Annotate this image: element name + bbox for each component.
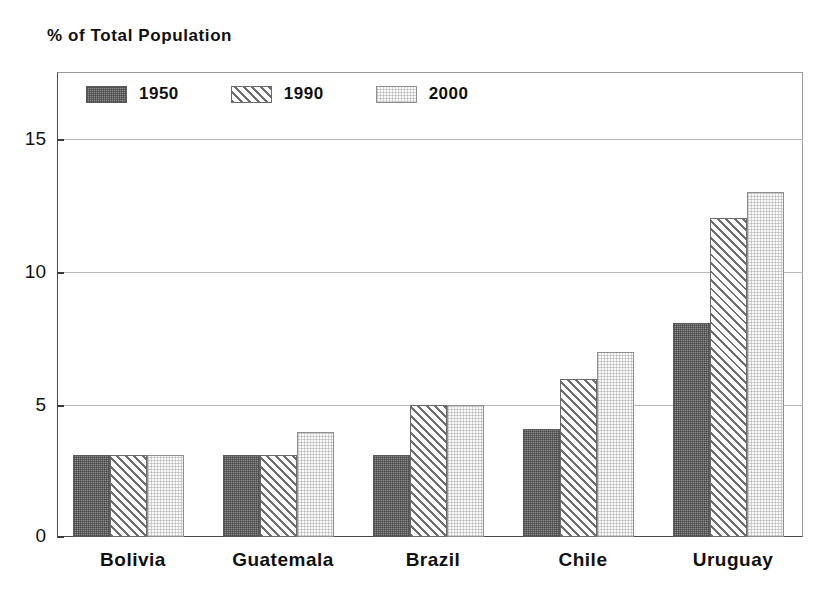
- bar-chile-2000[interactable]: [597, 352, 634, 537]
- bar-uruguay-1950[interactable]: [673, 323, 710, 537]
- bar-brazil-1990[interactable]: [410, 405, 447, 537]
- xlabel-guatemala: Guatemala: [208, 549, 358, 571]
- ytick-label-0: 0: [6, 525, 46, 547]
- xlabel-uruguay: Uruguay: [658, 549, 808, 571]
- bar-guatemala-1950[interactable]: [223, 455, 260, 537]
- ytick-label-10: 10: [6, 261, 46, 283]
- bar-chile-1950[interactable]: [523, 429, 560, 537]
- bar-bolivia-1990[interactable]: [110, 455, 147, 537]
- bar-group-uruguay: [673, 73, 784, 537]
- bar-bolivia-1950[interactable]: [73, 455, 110, 537]
- xlabel-brazil: Brazil: [358, 549, 508, 571]
- bar-group-guatemala: [223, 73, 334, 537]
- bar-group-brazil: [373, 73, 484, 537]
- chart-axis-title: % of Total Population: [47, 26, 232, 46]
- bar-bolivia-2000[interactable]: [147, 455, 184, 537]
- xlabel-bolivia: Bolivia: [58, 549, 208, 571]
- bar-guatemala-1990[interactable]: [260, 455, 297, 537]
- plot-area: [58, 73, 802, 537]
- bar-guatemala-2000[interactable]: [297, 432, 334, 537]
- bar-chile-1990[interactable]: [560, 379, 597, 537]
- bar-group-chile: [523, 73, 634, 537]
- bar-brazil-1950[interactable]: [373, 455, 410, 537]
- ytick-label-15: 15: [6, 128, 46, 150]
- bar-uruguay-1990[interactable]: [710, 218, 747, 537]
- bar-brazil-2000[interactable]: [447, 405, 484, 537]
- xlabel-chile: Chile: [508, 549, 658, 571]
- bar-chart: % of Total Population 15 10 5 0 1950 199…: [0, 0, 834, 594]
- bar-uruguay-2000[interactable]: [747, 192, 784, 537]
- bar-group-bolivia: [73, 73, 184, 537]
- ytick-label-5: 5: [6, 394, 46, 416]
